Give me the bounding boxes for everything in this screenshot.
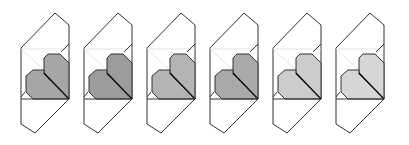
diagram-canvas <box>0 0 409 145</box>
origami-diagram <box>0 0 409 145</box>
fold-step-4 <box>210 13 258 133</box>
fold-step-6 <box>336 13 384 133</box>
fold-step-5 <box>273 13 321 133</box>
fold-step-3 <box>147 13 195 133</box>
fold-step-2 <box>84 13 132 133</box>
fold-step-1 <box>21 13 69 133</box>
